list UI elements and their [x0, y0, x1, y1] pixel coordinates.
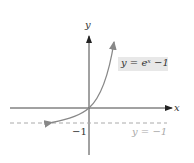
graph-canvas	[0, 0, 194, 163]
exponential-curve	[52, 42, 114, 123]
asymptote-label: y = −1	[132, 127, 167, 137]
x-axis-label: x	[174, 103, 180, 113]
y-axis-label: y	[85, 20, 91, 30]
equation-label: y = eˣ −1	[121, 58, 169, 68]
tick-label-minus-one: −1	[72, 127, 87, 137]
